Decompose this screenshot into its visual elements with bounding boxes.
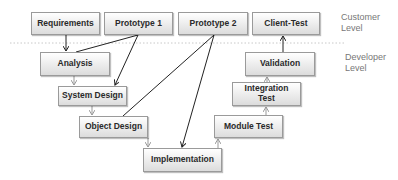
node-label: Prototype 1: [115, 19, 162, 29]
node-object-design: Object Design: [79, 116, 148, 138]
node-label: Analysis: [58, 59, 93, 69]
node-label: Validation: [260, 59, 300, 69]
node-implementation: Implementation: [143, 148, 222, 172]
node-label: Prototype 2: [190, 19, 237, 29]
node-label: System Design: [62, 91, 123, 101]
diagram-canvas: Requirements Prototype 1 Prototype 2 Cli…: [0, 0, 398, 180]
node-requirements: Requirements: [31, 12, 100, 35]
node-label: Test: [258, 94, 275, 104]
edge-prototype2-objectdesign: [123, 35, 214, 116]
node-client-test: Client-Test: [252, 12, 320, 35]
node-label: Implementation: [151, 155, 214, 165]
node-label: Requirements: [37, 19, 94, 29]
node-analysis: Analysis: [40, 52, 110, 76]
edge-prototype2-implementation: [182, 35, 214, 147]
node-module-test: Module Test: [214, 115, 283, 138]
customer-level-label: Customer Level: [341, 12, 380, 34]
node-label: Module Test: [224, 122, 273, 132]
developer-level-label: Developer Level: [345, 52, 386, 74]
node-prototype-1: Prototype 1: [104, 12, 173, 35]
edge-prototype1-analysis: [76, 35, 138, 52]
node-integration-test: Integration Test: [232, 82, 301, 106]
node-label: Object Design: [85, 122, 142, 132]
node-label: Client-Test: [264, 19, 307, 29]
node-system-design: System Design: [58, 86, 127, 106]
node-validation: Validation: [245, 52, 315, 76]
node-prototype-2: Prototype 2: [178, 12, 248, 35]
